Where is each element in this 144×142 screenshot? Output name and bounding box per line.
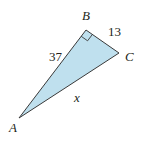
vertex-label-b: B bbox=[82, 8, 90, 23]
vertex-label-c: C bbox=[125, 49, 134, 64]
side-label-ac: x bbox=[73, 90, 80, 105]
vertex-label-a: A bbox=[8, 120, 17, 135]
triangle-diagram: B C A 37 13 x bbox=[0, 0, 144, 142]
triangle-abc bbox=[19, 30, 119, 118]
side-label-ab: 37 bbox=[49, 49, 63, 64]
side-label-bc: 13 bbox=[108, 24, 121, 39]
